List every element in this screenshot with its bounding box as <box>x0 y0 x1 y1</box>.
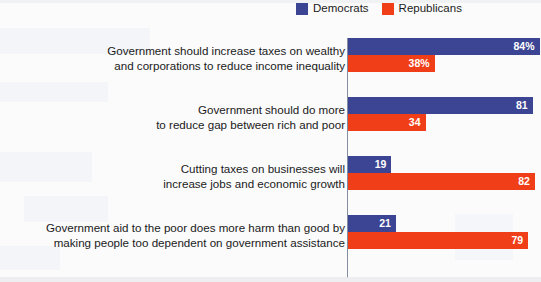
bar-value-label: 19 <box>375 159 392 170</box>
bar-value-label: 84% <box>514 41 540 52</box>
bar-value-label: 21 <box>379 218 396 229</box>
legend-label: Democrats <box>313 3 369 15</box>
bar-democrats: 84% <box>348 38 540 55</box>
bar-democrats: 21 <box>348 215 396 232</box>
bar-value-label: 34 <box>409 117 426 128</box>
legend-item-democrats: Democrats <box>296 3 369 15</box>
category-label: Cutting taxes on businesses will increas… <box>15 162 345 191</box>
chart-screenshot: DemocratsRepublicans Government should i… <box>0 0 541 282</box>
square-swatch-icon <box>382 3 394 15</box>
bar-value-label: 79 <box>511 235 528 246</box>
bar-value-label: 82 <box>518 176 535 187</box>
chart-legend: DemocratsRepublicans <box>296 3 462 15</box>
bar-democrats: 19 <box>348 156 391 173</box>
square-swatch-icon <box>296 3 308 15</box>
category-label: Government aid to the poor does more har… <box>15 221 345 250</box>
bar-republicans: 79 <box>348 232 528 249</box>
bar-republicans: 38% <box>348 55 435 72</box>
bar-value-label: 81 <box>516 100 533 111</box>
scan-edge-bottom <box>0 277 541 282</box>
category-label: Government should do more to reduce gap … <box>15 103 345 132</box>
bar-democrats: 81 <box>348 97 533 114</box>
bar-republicans: 82 <box>348 173 535 190</box>
bar-republicans: 34 <box>348 114 426 131</box>
category-label: Government should increase taxes on weal… <box>15 44 345 73</box>
bar-value-label: 38% <box>409 58 435 69</box>
legend-item-republicans: Republicans <box>382 3 462 15</box>
plot-area: Government should increase taxes on weal… <box>0 22 541 282</box>
legend-label: Republicans <box>399 3 462 15</box>
